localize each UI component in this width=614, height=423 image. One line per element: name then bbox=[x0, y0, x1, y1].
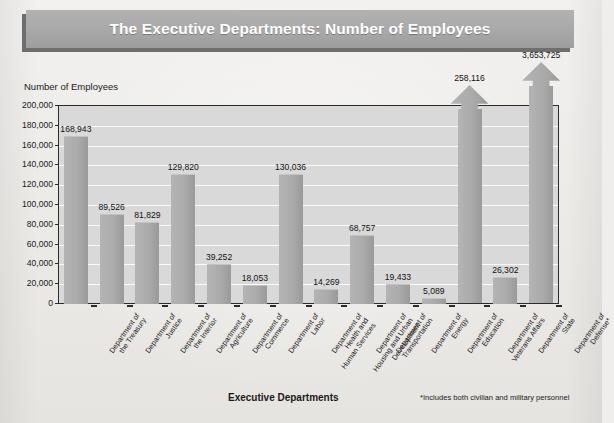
x-axis-title: Executive Departments bbox=[228, 392, 339, 403]
y-axis-title: Number of Employees bbox=[24, 81, 118, 92]
footnote: *Includes both civilian and military per… bbox=[420, 393, 569, 402]
title-banner: The Executive Departments: Number of Emp… bbox=[26, 10, 574, 48]
chart-title: The Executive Departments: Number of Emp… bbox=[109, 20, 490, 38]
